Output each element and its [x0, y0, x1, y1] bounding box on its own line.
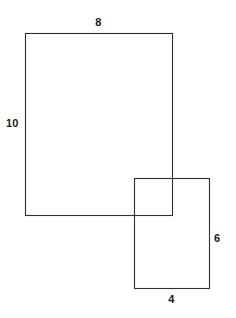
large-rectangle-top-label: 8 [95, 17, 101, 28]
large-rectangle [26, 34, 173, 216]
small-rectangle-bottom-label: 4 [168, 294, 174, 305]
rectangles-drawing [0, 0, 236, 318]
small-rectangle-right-label: 6 [214, 233, 220, 244]
figure-canvas: 8 10 4 6 [0, 0, 236, 318]
large-rectangle-left-label: 10 [6, 118, 19, 129]
